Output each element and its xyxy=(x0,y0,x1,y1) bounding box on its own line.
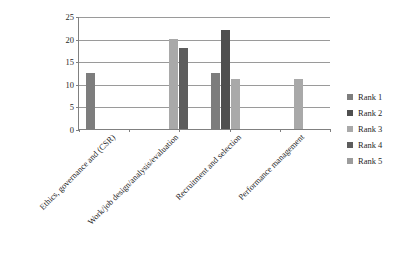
legend-label: Rank 4 xyxy=(358,141,382,150)
plot-area xyxy=(78,17,330,130)
bar-slot xyxy=(168,17,178,129)
bar-group xyxy=(267,17,330,129)
bar-slot xyxy=(125,17,135,129)
bar-slot xyxy=(105,17,115,129)
bar-slot xyxy=(294,17,304,129)
bar[interactable] xyxy=(231,79,240,129)
bar-slot xyxy=(115,17,125,129)
legend-label: Rank 3 xyxy=(358,125,382,134)
y-axis: 0510152025 xyxy=(50,17,74,130)
legend-label: Rank 1 xyxy=(358,93,382,102)
bar[interactable] xyxy=(294,79,303,129)
y-tick-label: 10 xyxy=(52,81,74,90)
bar[interactable] xyxy=(221,30,230,129)
y-tick-mark xyxy=(76,130,79,131)
y-tick-mark xyxy=(76,40,79,41)
bar-slot xyxy=(221,17,231,129)
bar-slot xyxy=(251,17,261,129)
bar-slot xyxy=(158,17,168,129)
x-tick-mark xyxy=(330,129,331,132)
bar-slot xyxy=(95,17,105,129)
y-tick-label: 5 xyxy=(52,103,74,112)
x-axis-label: Recruitment and selection xyxy=(173,132,243,202)
bar[interactable] xyxy=(179,48,188,129)
legend-label: Rank 2 xyxy=(358,109,382,118)
bar[interactable] xyxy=(211,73,220,130)
legend-item-rank-3[interactable]: Rank 3 xyxy=(347,121,405,137)
x-axis-label: Performance management xyxy=(236,132,306,202)
y-tick-mark xyxy=(76,17,79,18)
bar-group xyxy=(142,17,205,129)
y-tick-label: 0 xyxy=(52,126,74,135)
legend-swatch-icon xyxy=(347,158,353,164)
legend-swatch-icon xyxy=(347,142,353,148)
y-tick-label: 15 xyxy=(52,58,74,67)
bar-slot xyxy=(241,17,251,129)
legend-label: Rank 5 xyxy=(358,157,382,166)
bar-slot xyxy=(304,17,314,129)
y-tick-mark xyxy=(76,85,79,86)
bar[interactable] xyxy=(169,39,178,129)
bar-slot xyxy=(85,17,95,129)
legend-swatch-icon xyxy=(347,110,353,116)
legend-item-rank-4[interactable]: Rank 4 xyxy=(347,137,405,153)
bar[interactable] xyxy=(86,73,95,130)
legend-item-rank-1[interactable]: Rank 1 xyxy=(347,89,405,105)
bar-group xyxy=(79,17,142,129)
bar-slot xyxy=(211,17,221,129)
legend-swatch-icon xyxy=(347,94,353,100)
bar-slot xyxy=(284,17,294,129)
y-tick-label: 20 xyxy=(52,36,74,45)
bar-slot xyxy=(188,17,198,129)
x-axis-labels: Ethics, governance and (CSR)Work/job des… xyxy=(78,132,330,252)
bar-slot xyxy=(231,17,241,129)
bar-slot xyxy=(148,17,158,129)
y-tick-mark xyxy=(76,107,79,108)
chart-legend: Rank 1Rank 2Rank 3Rank 4Rank 5 xyxy=(347,89,405,169)
bar-groups xyxy=(79,17,330,129)
bar-slot xyxy=(274,17,284,129)
y-tick-mark xyxy=(76,62,79,63)
legend-item-rank-5[interactable]: Rank 5 xyxy=(347,153,405,169)
bar-slot xyxy=(178,17,188,129)
legend-item-rank-2[interactable]: Rank 2 xyxy=(347,105,405,121)
bar-chart: 0510152025 Ethics, governance and (CSR)W… xyxy=(0,0,407,267)
bar-slot xyxy=(314,17,324,129)
y-tick-label: 25 xyxy=(52,13,74,22)
legend-swatch-icon xyxy=(347,126,353,132)
bar-group xyxy=(205,17,268,129)
